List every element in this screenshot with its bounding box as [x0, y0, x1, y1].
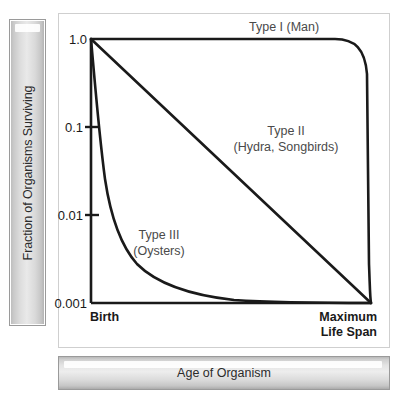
y-tick-label-0.1: 0.1 [65, 120, 83, 135]
plot-area-svg [59, 14, 389, 347]
x-axis-label-max-life-span: Maximum Life Span [257, 310, 377, 341]
curve-label-type-iii-line2: (Oysters) [109, 244, 209, 260]
chart-plot-frame: 1.0 0.1 0.01 0.001 Type I (Man) Type II … [58, 13, 390, 348]
curve-label-type-ii-line2: (Hydra, Songbirds) [216, 140, 356, 156]
y-axis-title-label: Fraction of Organisms Surviving [21, 85, 35, 260]
curve-label-type-ii: Type II (Hydra, Songbirds) [216, 124, 356, 155]
y-axis-title-bar: Fraction of Organisms Surviving [9, 19, 46, 326]
x-axis-label-max-life-span-line1: Maximum [257, 310, 377, 325]
curve-type-ii [91, 39, 371, 303]
x-axis-title-bar: Age of Organism [58, 356, 390, 390]
curve-label-type-iii-line1: Type III [109, 228, 209, 244]
y-axis-title-gloss [15, 24, 40, 32]
curve-label-type-i: Type I (Man) [249, 20, 319, 36]
curve-label-type-iii: Type III (Oysters) [109, 228, 209, 259]
curve-label-type-ii-line1: Type II [216, 124, 356, 140]
survivorship-curve-figure: Fraction of Organisms Surviving 1.0 0.1 … [0, 0, 398, 404]
x-axis-title-label: Age of Organism [59, 357, 389, 389]
y-tick-label-0.001: 0.001 [54, 296, 87, 311]
x-axis-label-birth: Birth [90, 310, 119, 325]
y-tick-label-0.01: 0.01 [58, 208, 83, 223]
x-axis-label-max-life-span-line2: Life Span [257, 325, 377, 340]
y-tick-label-1.0: 1.0 [69, 32, 87, 47]
